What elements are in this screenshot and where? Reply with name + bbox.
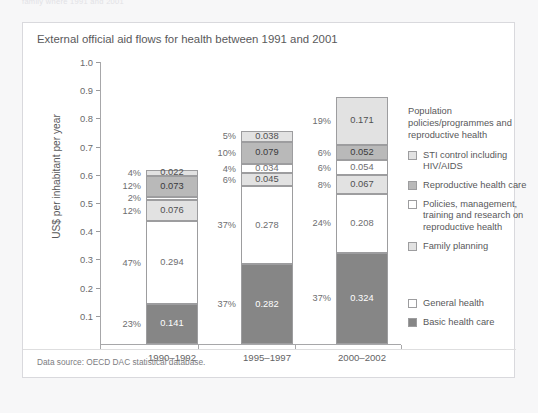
legend-item: STI control including HIV/AIDS bbox=[408, 150, 534, 173]
bar-segment-value: 0.054 bbox=[350, 163, 373, 172]
bar-segment-value: 0.038 bbox=[255, 132, 278, 141]
source-divider bbox=[23, 349, 516, 350]
y-axis-tick-label: 0.7 bbox=[59, 141, 93, 152]
bar-segment-percent: 19% bbox=[313, 116, 331, 126]
bar-segment-value: 0.073 bbox=[160, 182, 183, 191]
legend-item: Family planning bbox=[408, 241, 534, 253]
bar-segment-percent: 47% bbox=[123, 258, 141, 268]
bar-segment: 24%0.208 bbox=[336, 194, 388, 253]
bar-segment: 6%0.052 bbox=[336, 145, 388, 160]
bar-segment-percent: 24% bbox=[313, 218, 331, 228]
legend-item-label: STI control including HIV/AIDS bbox=[423, 150, 534, 173]
legend-item: Policies, management, training and resea… bbox=[408, 199, 534, 234]
bar-segment-percent: 6% bbox=[318, 148, 331, 158]
bar-segment-value: 0.045 bbox=[255, 175, 278, 184]
y-axis-tick-label: 1.0 bbox=[59, 57, 93, 68]
bar-segment: 37%0.282 bbox=[241, 264, 293, 344]
bar-segment-value: 0.278 bbox=[255, 221, 278, 230]
legend-heading: Population policies/programmes and repro… bbox=[408, 106, 534, 142]
legend-item-label: General health bbox=[423, 298, 484, 310]
legend-swatch-icon bbox=[408, 200, 417, 209]
legend-general-health: General healthBasic health care bbox=[408, 298, 534, 335]
bar-segment: 6%0.054 bbox=[336, 160, 388, 175]
y-axis-tick-label: 0.8 bbox=[59, 113, 93, 124]
stacked-bar: 4%0.02212%0.0732%12%0.07647%0.29423%0.14… bbox=[146, 170, 198, 344]
bar-segment: 4%0.034 bbox=[241, 164, 293, 174]
y-axis-tick-label: 0.2 bbox=[59, 282, 93, 293]
y-axis-tick-label: 0.5 bbox=[59, 198, 93, 209]
legend-swatch-icon bbox=[408, 181, 417, 190]
page-header-fragment: family where 1991 and 2001 bbox=[22, 0, 124, 6]
bar-segment: 12%0.073 bbox=[146, 176, 198, 197]
y-axis-tick-label: 0.6 bbox=[59, 169, 93, 180]
bar-segment-percent: 4% bbox=[128, 168, 141, 178]
legend-swatch-icon bbox=[408, 318, 417, 327]
bar-segment-percent: 2% bbox=[128, 193, 141, 203]
bar-segment-percent: 37% bbox=[218, 220, 236, 230]
bar-segment: 6%0.045 bbox=[241, 173, 293, 186]
bar-segment-value: 0.141 bbox=[160, 319, 183, 328]
legend-item: Basic health care bbox=[408, 317, 534, 329]
y-axis-tick-label: 0.4 bbox=[59, 226, 93, 237]
figure-card: External official aid flows for health b… bbox=[22, 22, 515, 378]
bar-segment: 12%0.076 bbox=[146, 200, 198, 221]
bar-segment-value: 0.208 bbox=[350, 219, 373, 228]
bar-segment: 37%0.278 bbox=[241, 186, 293, 264]
bar-segment: 47%0.294 bbox=[146, 221, 198, 304]
x-axis-category-label: 2000–2002 bbox=[302, 352, 422, 363]
bar-segment-percent: 10% bbox=[218, 148, 236, 158]
bar-segment-percent: 6% bbox=[223, 175, 236, 185]
bar-segment: 37%0.324 bbox=[336, 253, 388, 344]
legend-reproductive-health: Population policies/programmes and repro… bbox=[408, 106, 516, 260]
legend-swatch-icon bbox=[408, 242, 417, 251]
bar-segment-percent: 37% bbox=[313, 293, 331, 303]
legend-swatch-icon bbox=[408, 299, 417, 308]
legend-item-label: Basic health care bbox=[423, 317, 494, 329]
bar-segment-percent: 5% bbox=[223, 131, 236, 141]
bar-segment: 19%0.171 bbox=[336, 97, 388, 145]
source-note: Data source: OECD DAC statistical databa… bbox=[37, 357, 205, 367]
bar-segment-value: 0.079 bbox=[255, 148, 278, 157]
bar-segment: 5%0.038 bbox=[241, 131, 293, 142]
bar-segment-percent: 12% bbox=[123, 181, 141, 191]
bar-segment: 23%0.141 bbox=[146, 304, 198, 344]
bar-segment: 8%0.067 bbox=[336, 175, 388, 194]
bar-segment-value: 0.034 bbox=[255, 164, 278, 173]
bar-segment: 10%0.079 bbox=[241, 142, 293, 164]
bar-segment-percent: 4% bbox=[223, 164, 236, 174]
stacked-bar: 5%0.03810%0.0794%0.0346%0.04537%0.27837%… bbox=[241, 131, 293, 344]
bar-segment-value: 0.324 bbox=[350, 294, 373, 303]
legend-item-label: Policies, management, training and resea… bbox=[423, 199, 534, 234]
legend-swatch-icon bbox=[408, 151, 417, 160]
bar-segment-value: 0.067 bbox=[350, 180, 373, 189]
bar-segment-value: 0.282 bbox=[255, 300, 278, 309]
legend-item-label: Reproductive health care bbox=[423, 180, 526, 192]
legend-item-label: Family planning bbox=[423, 241, 488, 253]
bar-segment-value: 0.171 bbox=[350, 116, 373, 125]
y-axis-tick-label: 0.1 bbox=[59, 310, 93, 321]
y-axis-tick-label: 0.3 bbox=[59, 254, 93, 265]
bar-segment-percent: 8% bbox=[318, 180, 331, 190]
bar-segment-value: 0.076 bbox=[160, 206, 183, 215]
y-axis-tick-label: 0.9 bbox=[59, 85, 93, 96]
y-axis-line bbox=[100, 62, 101, 345]
bar-segment-percent: 23% bbox=[123, 319, 141, 329]
bar-segment-percent: 12% bbox=[123, 206, 141, 216]
bar-segment-percent: 6% bbox=[318, 163, 331, 173]
legend-item: Reproductive health care bbox=[408, 180, 534, 192]
bar-segment-percent: 37% bbox=[218, 299, 236, 309]
bar-segment-value: 0.052 bbox=[350, 148, 373, 157]
bar-segment-value: 0.294 bbox=[160, 258, 183, 267]
stacked-bar: 19%0.1716%0.0526%0.0548%0.06724%0.20837%… bbox=[336, 97, 388, 344]
legend-item: General health bbox=[408, 298, 534, 310]
x-axis-line bbox=[100, 344, 401, 345]
